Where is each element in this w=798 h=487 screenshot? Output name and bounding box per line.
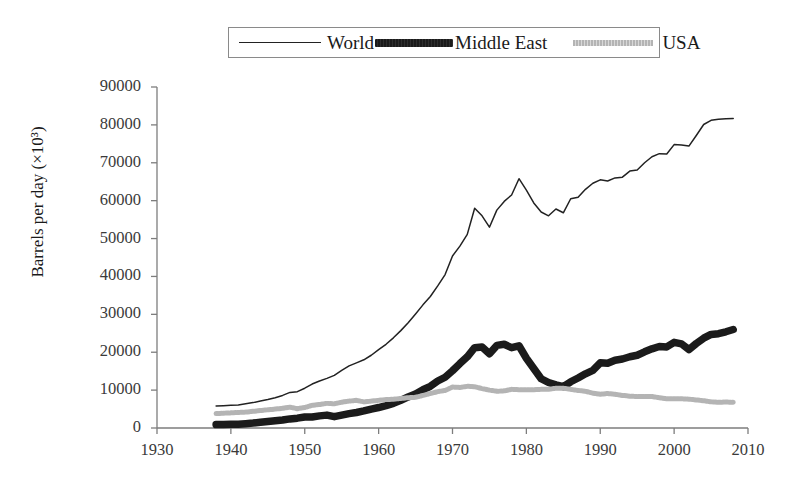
axis-lines xyxy=(151,87,748,434)
plot-area xyxy=(0,0,798,487)
data-series xyxy=(216,118,733,424)
chart-figure: World Middle East USA Barrels per day (×… xyxy=(0,0,798,487)
series-line-world xyxy=(216,118,733,406)
series-line-usa xyxy=(216,386,733,413)
